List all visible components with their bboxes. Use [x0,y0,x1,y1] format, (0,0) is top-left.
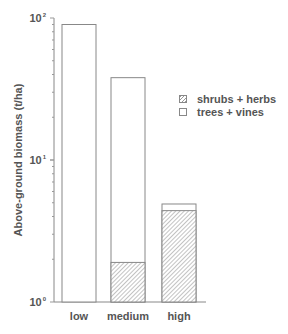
x-tick-label-medium: medium [107,310,149,322]
y-tick-label-100: 102 [29,12,46,24]
bar-low-trees-vines [62,24,96,302]
legend-item-trees-vines: trees + vines [179,105,276,118]
bar-medium-shrubs-herbs [111,262,145,302]
bar-high-shrubs-herbs [162,211,196,302]
legend: shrubs + herbs trees + vines [179,92,276,118]
y-axis-ticks [50,18,54,302]
open-swatch-icon [179,108,187,116]
x-tick-label-high: high [167,310,190,322]
chart-plot-area [0,0,288,334]
legend-item-shrubs-herbs: shrubs + herbs [179,92,276,105]
bars [62,24,196,302]
y-tick-label-1: 100 [29,296,46,308]
hatched-swatch-icon [179,95,187,103]
x-tick-label-low: low [70,310,88,322]
y-tick-label-10: 101 [29,154,46,166]
